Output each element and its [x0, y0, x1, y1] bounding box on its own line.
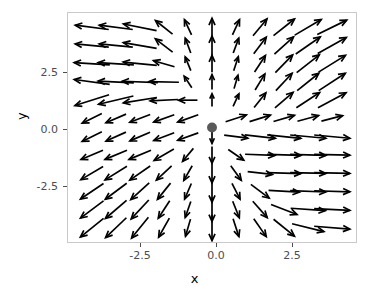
field-arrow: [185, 184, 192, 199]
field-arrow: [317, 20, 346, 34]
field-arrow: [271, 204, 297, 214]
field-arrow: [184, 219, 190, 236]
field-arrow: [233, 38, 239, 53]
field-arrow: [231, 166, 242, 180]
field-arrow: [275, 92, 293, 107]
field-arrow: [297, 55, 320, 73]
x-tick-mark--2.5: [140, 243, 141, 247]
field-arrow: [295, 19, 321, 35]
field-arrow: [80, 201, 103, 218]
field-arrow: [254, 37, 267, 54]
field-arrow: [184, 166, 192, 181]
field-arrow: [184, 20, 191, 35]
field-arrow: [185, 38, 191, 53]
field-arrow: [254, 93, 266, 108]
field-arrow: [321, 114, 342, 121]
field-arrow: [81, 150, 103, 159]
field-arrow: [292, 224, 324, 233]
field-arrow: [131, 200, 149, 219]
field-arrow: [251, 184, 269, 198]
field-arrow: [183, 148, 194, 161]
field-arrow: [129, 150, 151, 159]
field-arrow: [297, 73, 319, 90]
field-arrow: [154, 133, 174, 141]
field-arrow: [210, 94, 214, 107]
field-arrow: [248, 171, 273, 177]
field-arrow: [226, 114, 247, 122]
field-arrow: [296, 37, 320, 54]
field-arrow: [296, 93, 319, 108]
field-arrow: [233, 201, 240, 218]
field-arrow: [82, 114, 102, 124]
field-arrow: [155, 21, 172, 35]
y-tick-label-0.0: 0.0: [24, 124, 58, 135]
field-arrow: [209, 146, 215, 163]
field-arrow: [234, 75, 239, 88]
x-axis-title: x: [0, 271, 389, 286]
field-arrow: [106, 114, 126, 123]
y-axis-title: y: [14, 112, 29, 120]
field-arrow: [155, 39, 172, 52]
field-arrow: [233, 94, 239, 107]
field-arrow: [131, 183, 149, 200]
field-arrow: [105, 183, 126, 199]
field-arrow: [106, 218, 127, 238]
field-arrow: [209, 75, 214, 90]
field-arrow: [178, 133, 199, 141]
field-arrow: [80, 218, 103, 237]
field-arrow: [184, 76, 192, 88]
field-arrow: [154, 115, 175, 123]
field-arrow: [319, 55, 346, 72]
field-arrow: [232, 183, 240, 199]
field-arrow: [149, 79, 179, 85]
field-arrow: [274, 114, 295, 121]
x-tick-mark-0.0: [216, 243, 217, 247]
field-arrow: [274, 219, 295, 236]
field-arrow: [224, 134, 248, 140]
field-arrow: [150, 98, 178, 104]
field-arrow: [209, 18, 215, 36]
field-arrow: [179, 97, 198, 103]
x-tick-label--2.5: -2.5: [129, 250, 150, 261]
field-arrow: [255, 55, 266, 72]
field-arrow: [274, 37, 293, 54]
field-arrow: [156, 166, 171, 180]
field-arrow: [253, 19, 267, 36]
field-arrow: [159, 218, 170, 237]
field-arrow: [105, 150, 127, 159]
field-arrow: [269, 189, 300, 195]
field-arrow: [253, 201, 267, 217]
fixed-point-marker: [207, 123, 217, 133]
field-arrow: [275, 55, 292, 73]
field-arrow: [80, 183, 103, 199]
field-arrow: [157, 183, 170, 199]
field-arrow: [319, 73, 346, 90]
field-arrow: [232, 20, 239, 35]
quiver-plot: [68, 13, 356, 242]
field-arrow: [106, 132, 126, 141]
field-arrow: [228, 149, 243, 160]
field-arrow: [297, 114, 318, 121]
vector-field-figure: y 2.5 0.0 -2.5 -2.5 0.0 2.5 x: [0, 0, 389, 294]
x-tick-label-2.5: 2.5: [283, 250, 301, 261]
field-arrow: [130, 132, 150, 141]
field-arrow: [82, 132, 102, 142]
field-arrow: [158, 201, 169, 218]
field-arrow: [130, 166, 150, 180]
field-arrow: [233, 219, 240, 237]
field-arrow: [254, 219, 266, 237]
x-tick-label-0.0: 0.0: [207, 250, 225, 261]
y-tick-label-2.5: 2.5: [24, 67, 58, 78]
field-arrow: [132, 217, 149, 238]
field-arrow: [105, 200, 126, 218]
field-arrow: [250, 114, 271, 121]
field-arrow: [130, 114, 150, 122]
plot-panel: [67, 12, 357, 243]
field-arrow: [276, 73, 292, 90]
field-arrow: [105, 166, 127, 180]
field-arrow: [185, 202, 191, 218]
field-arrow: [318, 93, 346, 108]
field-arrow: [234, 57, 239, 71]
field-arrow: [209, 55, 215, 72]
field-arrow: [185, 57, 191, 71]
